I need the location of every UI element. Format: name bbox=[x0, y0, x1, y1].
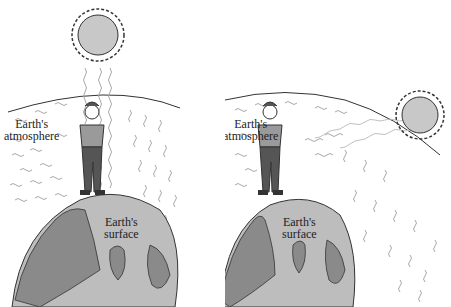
surface-label: Earth'ssurface bbox=[282, 216, 317, 240]
panel-sun-overhead: Earth'satmosphere Earth'ssurface bbox=[0, 0, 226, 307]
panel-sun-horizon: Earth'satmosphere Earth'ssurface bbox=[225, 0, 451, 307]
sun-icon bbox=[396, 91, 444, 139]
atmosphere-label: Earth'satmosphere bbox=[4, 118, 59, 142]
atmosphere-label: Earth'satmosphere bbox=[225, 118, 278, 142]
horizon-illustration bbox=[225, 0, 451, 307]
person-figure bbox=[258, 102, 283, 195]
surface-label: Earth'ssurface bbox=[104, 216, 139, 240]
overhead-illustration bbox=[0, 0, 226, 307]
earth-globe bbox=[12, 194, 178, 307]
sun-icon bbox=[72, 9, 124, 61]
